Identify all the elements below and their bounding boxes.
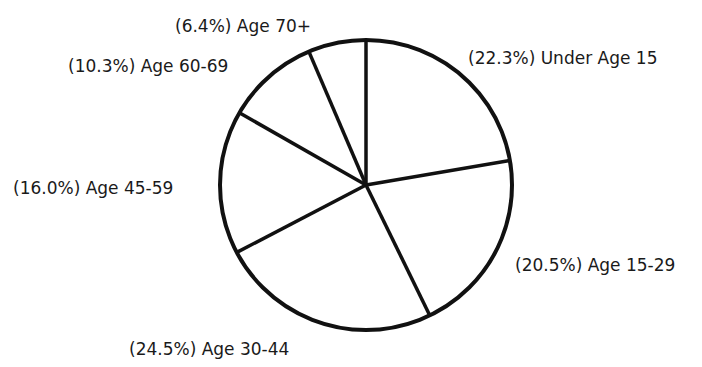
slice-divider (366, 185, 430, 315)
slice-divider (237, 185, 366, 252)
label-age-70-plus: (6.4%) Age 70+ (175, 16, 311, 36)
slice-divider (309, 52, 366, 185)
label-age-60-69: (10.3%) Age 60-69 (68, 56, 228, 76)
label-age-45-59: (16.0%) Age 45-59 (13, 178, 173, 198)
slice-divider (366, 161, 510, 186)
label-under-15: (22.3%) Under Age 15 (468, 48, 657, 68)
label-age-15-29: (20.5%) Age 15-29 (515, 255, 675, 275)
label-age-30-44: (24.5%) Age 30-44 (129, 339, 289, 359)
pie-chart: (22.3%) Under Age 15 (20.5%) Age 15-29 (… (0, 0, 702, 367)
slice-divider (239, 113, 366, 185)
